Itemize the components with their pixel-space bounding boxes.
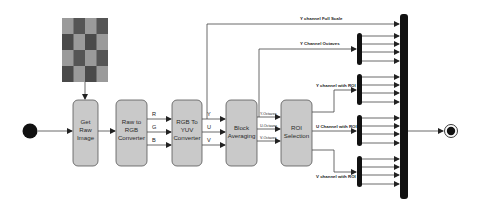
svg-text:Get: Get xyxy=(81,118,91,125)
svg-text:B: B xyxy=(152,137,156,143)
svg-text:YUV: YUV xyxy=(181,126,195,133)
svg-text:U-Octaves: U-Octaves xyxy=(260,124,277,128)
rgb-edges: R G B xyxy=(147,111,171,145)
svg-text:Y-Octaves: Y-Octaves xyxy=(260,112,277,116)
join-bar xyxy=(400,14,408,199)
svg-text:V-Octaves: V-Octaves xyxy=(260,136,277,140)
svg-text:U Channel with ROI: U Channel with ROI xyxy=(316,124,357,129)
svg-text:V: V xyxy=(207,137,211,143)
raw-image-pattern-icon xyxy=(62,18,108,82)
svg-text:Y channel Full Scale: Y channel Full Scale xyxy=(300,16,343,21)
svg-text:Y: Y xyxy=(207,111,211,117)
node-rgb-to-yuv-converter: RGB To YUV Converter xyxy=(172,100,202,166)
node-roi-selection: ROI Selection xyxy=(281,100,312,166)
svg-text:V channel with ROI: V channel with ROI xyxy=(316,174,356,179)
svg-text:RGB To: RGB To xyxy=(176,118,198,125)
fork-bars xyxy=(357,33,362,187)
svg-text:Converter: Converter xyxy=(118,134,145,141)
svg-text:Raw to: Raw to xyxy=(122,118,142,125)
svg-text:RGB: RGB xyxy=(125,126,138,133)
roi-output-edges: Y channel with ROI U Channel with ROI V … xyxy=(312,83,357,179)
svg-text:Raw: Raw xyxy=(79,126,92,133)
node-get-raw-image: Get Raw Image xyxy=(73,100,98,166)
svg-text:Averaging: Averaging xyxy=(228,132,256,139)
svg-text:ROI: ROI xyxy=(291,124,302,131)
svg-text:Block: Block xyxy=(234,124,250,131)
yuv-edges: Y U V xyxy=(202,111,225,145)
svg-text:Selection: Selection xyxy=(284,132,310,139)
node-block-averaging: Block Averaging xyxy=(226,100,257,166)
end-node xyxy=(445,125,458,138)
svg-text:G: G xyxy=(152,124,156,130)
node-raw-to-rgb-converter: Raw to RGB Converter xyxy=(116,100,147,166)
svg-text:Converter: Converter xyxy=(173,134,200,141)
start-node xyxy=(23,124,38,139)
svg-text:Image: Image xyxy=(77,134,95,141)
flow-diagram: Get Raw Image Raw to RGB Converter R G B… xyxy=(0,0,482,206)
svg-text:Y channel with ROI: Y channel with ROI xyxy=(316,83,356,88)
svg-text:Y Channel Octaves: Y Channel Octaves xyxy=(300,41,340,46)
svg-text:R: R xyxy=(152,111,156,117)
svg-text:U: U xyxy=(207,124,211,130)
fork-output-arrows xyxy=(362,36,399,184)
octave-edges: Y-Octaves U-Octaves V-Octaves xyxy=(257,112,280,142)
